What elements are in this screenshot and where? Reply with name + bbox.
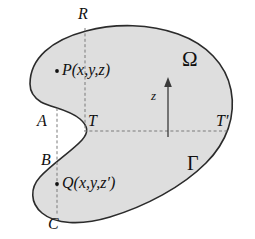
vertex-t-prime-label: T′: [216, 113, 228, 129]
vertex-b-label: B: [41, 152, 51, 168]
point-p-dot: [55, 69, 59, 73]
point-q-label: Q(x,y,z′): [62, 175, 115, 191]
point-q-dot: [55, 182, 59, 186]
omega-region-label: Ω: [182, 49, 198, 70]
z-axis-label: z: [151, 89, 156, 102]
vertex-c-label: C: [48, 216, 59, 232]
omega-region-shape: [30, 26, 232, 223]
gamma-boundary-label: Γ: [187, 153, 199, 173]
vertex-r-label: R: [78, 6, 88, 22]
point-p-label: P(x,y,z): [62, 62, 110, 78]
vertex-a-label: A: [37, 113, 47, 129]
vertex-t-label: T: [88, 113, 97, 129]
geometry-figure: P(x,y,z) Q(x,y,z′) R A T T′ B C Ω Γ z: [0, 0, 255, 239]
region-group: [30, 26, 232, 223]
